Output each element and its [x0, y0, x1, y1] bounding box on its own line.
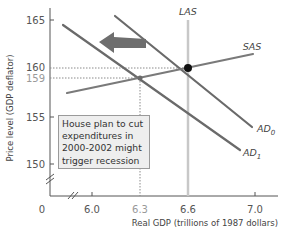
- annotation-box: House plan to cut expenditures in 2000-2…: [58, 115, 150, 169]
- sas-curve: [67, 54, 253, 93]
- las-label: LAS: [179, 6, 197, 17]
- y-tick-159: 159: [26, 73, 45, 84]
- annotation-line-3: 2000-2002 might: [62, 142, 146, 154]
- annotation-line-4: trigger recession: [62, 155, 146, 167]
- y-axis-title: Price level (GDP deflator): [5, 54, 15, 161]
- x-tick-6-6: 6.6: [180, 204, 196, 215]
- initial-equilibrium-dot: [184, 64, 192, 72]
- ad-as-chart: Price level (GDP deflator) 165 160 159 1…: [0, 0, 290, 231]
- ad1-label: AD1: [242, 147, 261, 161]
- x-tick-0: 0: [39, 204, 45, 215]
- y-tick-150: 150: [26, 159, 45, 170]
- x-tick-6-3: 6.3: [132, 204, 148, 215]
- x-tick-6-0: 6.0: [84, 204, 100, 215]
- ad0-label: AD0: [256, 123, 276, 137]
- x-tick-7-0: 7.0: [247, 204, 263, 215]
- sas-label: SAS: [243, 41, 262, 52]
- new-equilibrium-point: [138, 76, 143, 81]
- y-tick-160: 160: [26, 62, 45, 73]
- y-tick-165: 165: [26, 15, 45, 26]
- annotation-line-1: House plan to cut: [62, 118, 146, 130]
- x-axis-title: Real GDP (trillions of 1987 dollars): [132, 218, 278, 228]
- annotation-line-2: expenditures in: [62, 130, 146, 142]
- y-tick-155: 155: [26, 112, 45, 123]
